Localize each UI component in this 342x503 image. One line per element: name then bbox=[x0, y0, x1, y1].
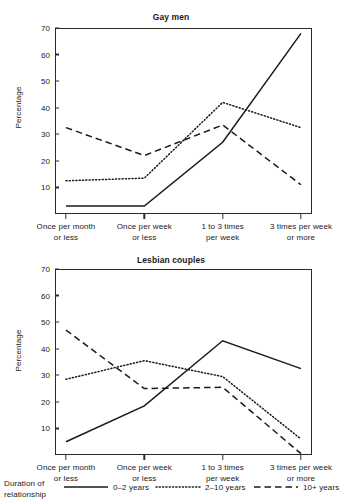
legend-title-line2: relationship bbox=[4, 489, 62, 500]
x-axis-label-line: 3 times per week bbox=[270, 221, 332, 232]
y-axis-tick: 50 bbox=[41, 318, 55, 327]
legend-swatch-dotted bbox=[156, 482, 200, 492]
chart-panel-lesbian-couples: Lesbian couples Percentage 1020304050607… bbox=[0, 251, 342, 466]
legend: Duration of relationship 0–2 years2–10 y… bbox=[2, 478, 342, 503]
x-axis-label-line: 3 times per week bbox=[270, 462, 332, 473]
chart-title: Gay men bbox=[0, 12, 342, 22]
y-axis-label: Percentage bbox=[14, 63, 23, 153]
legend-item: 0–2 years bbox=[64, 482, 149, 496]
y-axis-tick: 40 bbox=[41, 344, 55, 353]
plot-area: 10203040506070 Once per monthor lessOnce… bbox=[55, 28, 312, 214]
x-axis-label: Once per weekor less bbox=[117, 221, 172, 243]
legend-swatch-dashed bbox=[254, 482, 298, 492]
legend-label: 2–10 years bbox=[200, 483, 246, 492]
x-axis-label-line: or less bbox=[37, 232, 96, 243]
series-line-solid bbox=[66, 33, 301, 206]
legend-title-line1: Duration of bbox=[4, 478, 62, 489]
y-axis-label: Percentage bbox=[14, 306, 23, 396]
legend-item: 10+ years bbox=[254, 482, 339, 496]
x-tick-mark bbox=[222, 214, 223, 219]
x-axis-label-line: per week bbox=[201, 232, 244, 243]
x-axis-label-line: Once per week bbox=[117, 462, 172, 473]
x-tick-mark bbox=[300, 455, 301, 460]
y-axis-tick: 70 bbox=[41, 24, 55, 33]
figure-two-line-charts: Gay men Percentage 10203040506070 Once p… bbox=[0, 0, 342, 503]
y-axis-tick: 60 bbox=[41, 50, 55, 59]
chart-title: Lesbian couples bbox=[0, 255, 342, 265]
y-axis-tick: 40 bbox=[41, 103, 55, 112]
legend-title: Duration of relationship bbox=[4, 478, 62, 500]
x-axis-label-line: Once per week bbox=[117, 221, 172, 232]
y-axis-tick: 20 bbox=[41, 397, 55, 406]
legend-swatch-solid bbox=[64, 482, 108, 492]
legend-label: 0–2 years bbox=[108, 483, 149, 492]
x-tick-mark bbox=[144, 455, 145, 460]
x-axis-label: 3 times per weekor more bbox=[270, 221, 332, 243]
plot-area: 10203040506070 Once per monthor lessOnce… bbox=[55, 269, 312, 455]
x-tick-mark bbox=[222, 455, 223, 460]
chart-panel-gay-men: Gay men Percentage 10203040506070 Once p… bbox=[0, 0, 342, 252]
series-line-dashed bbox=[66, 330, 301, 454]
legend-item: 2–10 years bbox=[156, 482, 246, 496]
x-axis-label-line: or more bbox=[270, 232, 332, 243]
x-tick-mark bbox=[144, 214, 145, 219]
series-lines bbox=[55, 28, 312, 214]
legend-items: 0–2 years2–10 years10+ years bbox=[64, 482, 342, 496]
x-axis-label-line: 1 to 3 times bbox=[201, 462, 244, 473]
x-axis-label: 1 to 3 timesper week bbox=[201, 221, 244, 243]
x-axis-label-line: Once per month bbox=[37, 462, 96, 473]
x-tick-mark bbox=[65, 214, 66, 219]
y-axis-tick: 20 bbox=[41, 156, 55, 165]
y-axis-tick: 70 bbox=[41, 265, 55, 274]
x-axis-label: Once per monthor less bbox=[37, 221, 96, 243]
y-axis-tick: 10 bbox=[41, 183, 55, 192]
series-line-dashed bbox=[66, 125, 301, 185]
y-axis-tick: 10 bbox=[41, 424, 55, 433]
x-tick-mark bbox=[300, 214, 301, 219]
series-lines bbox=[55, 269, 312, 455]
x-axis-label-line: 1 to 3 times bbox=[201, 221, 244, 232]
y-axis-tick: 50 bbox=[41, 77, 55, 86]
x-axis-label-line: Once per month bbox=[37, 221, 96, 232]
x-axis-label-line: or less bbox=[117, 232, 172, 243]
legend-label: 10+ years bbox=[298, 483, 339, 492]
y-axis-tick: 30 bbox=[41, 371, 55, 380]
y-axis-tick: 30 bbox=[41, 130, 55, 139]
x-tick-mark bbox=[65, 455, 66, 460]
series-line-dotted bbox=[66, 102, 301, 180]
y-axis-tick: 60 bbox=[41, 291, 55, 300]
